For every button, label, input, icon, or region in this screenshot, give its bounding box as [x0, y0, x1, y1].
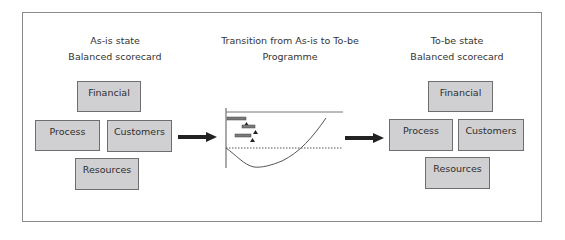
as-is-title: As-is state: [90, 35, 140, 46]
to-be-customers-box: Customers: [458, 119, 524, 151]
milestone-icon: [250, 138, 255, 142]
transition-chart: [222, 105, 347, 175]
as-is-financial-box: Financial: [77, 81, 141, 112]
to-be-process-label: Process: [403, 125, 439, 136]
milestone-icon: [253, 130, 258, 134]
to-be-resources-box: Resources: [425, 157, 490, 189]
as-is-resources-box: Resources: [75, 158, 139, 190]
gantt-bar-1: [227, 117, 246, 120]
transition-title: Transition from As-is to To-be: [221, 35, 359, 46]
chart-j-curve: [226, 118, 326, 167]
gantt-bar-2: [242, 125, 255, 128]
to-be-title: To-be state: [431, 35, 484, 46]
as-is-customers-box: Customers: [107, 120, 172, 152]
to-be-financial-box: Financial: [428, 81, 493, 112]
to-be-process-box: Process: [389, 119, 453, 151]
as-is-financial-label: Financial: [88, 87, 130, 98]
as-is-process-label: Process: [49, 126, 85, 137]
gantt-bar-3: [235, 134, 251, 137]
to-be-customers-label: Customers: [465, 125, 516, 136]
as-is-resources-label: Resources: [83, 164, 132, 175]
as-is-customers-label: Customers: [114, 126, 165, 137]
to-be-financial-label: Financial: [440, 87, 482, 98]
right-arrow-icon: [178, 131, 218, 143]
to-be-subtitle: Balanced scorecard: [410, 51, 503, 62]
to-be-resources-label: Resources: [433, 163, 482, 174]
transition-subtitle: Programme: [262, 51, 317, 62]
as-is-subtitle: Balanced scorecard: [68, 51, 161, 62]
right-arrow-icon: [345, 132, 385, 144]
as-is-process-box: Process: [35, 120, 100, 151]
